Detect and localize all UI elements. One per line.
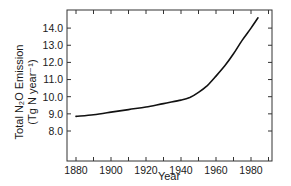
x-tick-label: 1900 (99, 164, 123, 176)
y-axis-title-line1: Total N₂O Emission (13, 45, 25, 140)
x-tick-label: 1960 (204, 164, 228, 176)
y-tick-label: 14.0 (43, 22, 64, 34)
y-axis-title-line2: (Tg N year⁻¹) (26, 59, 38, 124)
y-tick-label: 10.0 (43, 91, 64, 103)
line-chart: Total N₂O Emission (Tg N year⁻¹) 8.09.01… (0, 0, 291, 186)
y-tick-label: 8.0 (48, 125, 63, 137)
y-axis: 8.09.010.011.012.013.014.0 (43, 22, 272, 137)
x-axis-title: Year (158, 170, 181, 182)
y-axis-title: Total N₂O Emission (Tg N year⁻¹) (13, 45, 38, 140)
x-axis: 188019001920194019601980 (64, 10, 268, 176)
x-tick-label: 1980 (239, 164, 263, 176)
y-tick-label: 13.0 (43, 39, 64, 51)
y-tick-label: 12.0 (43, 56, 64, 68)
plot-frame (67, 10, 272, 161)
y-tick-label: 9.0 (48, 108, 63, 120)
y-tick-label: 11.0 (43, 73, 63, 85)
x-tick-label: 1880 (64, 164, 88, 176)
emission-line (76, 18, 258, 117)
x-tick-label: 1920 (134, 164, 158, 176)
